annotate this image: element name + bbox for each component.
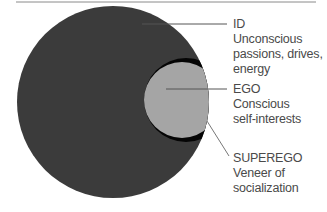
id-desc-line3: energy <box>233 62 323 77</box>
ego-desc-line2: self-interests <box>233 112 301 127</box>
superego-title: SUPEREGO <box>233 151 302 166</box>
ego-desc-line1: Conscious <box>233 97 301 112</box>
superego-label: SUPEREGO Veneer of socialization <box>233 151 302 196</box>
id-desc-line2: passions, drives, <box>233 47 323 62</box>
id-desc-line1: Unconscious <box>233 32 323 47</box>
superego-leader-line <box>207 121 229 156</box>
ego-label: EGO Conscious self-interests <box>233 82 301 127</box>
superego-desc-line2: socialization <box>233 181 302 196</box>
id-label: ID Unconscious passions, drives, energy <box>233 17 323 77</box>
id-title: ID <box>233 17 323 32</box>
ego-circle <box>144 62 220 138</box>
superego-desc-line1: Veneer of <box>233 166 302 181</box>
ego-title: EGO <box>233 82 301 97</box>
